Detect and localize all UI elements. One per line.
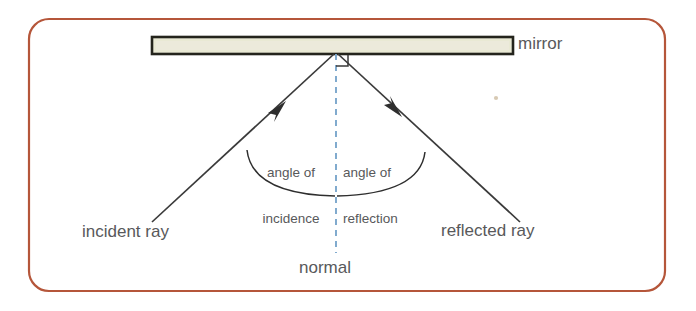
- incident-ray-arrowhead: [268, 101, 286, 122]
- reflected-ray-label: reflected ray: [441, 221, 535, 240]
- angle-of-incidence-label-line1: angle of: [252, 165, 330, 180]
- angle-of-incidence-label: angle of incidence: [252, 135, 330, 256]
- scan-artifact-dot: [494, 96, 498, 100]
- angle-of-reflection-label-line1: angle of: [343, 165, 427, 180]
- normal-label: normal: [299, 258, 351, 277]
- incident-ray-label: incident ray: [82, 222, 169, 241]
- reflection-diagram: mirror incident ray reflected ray normal…: [0, 0, 696, 311]
- angle-of-reflection-label: angle of reflection: [343, 135, 427, 256]
- mirror-bar: [152, 37, 513, 54]
- mirror-label: mirror: [518, 34, 562, 53]
- angle-of-reflection-label-line2: reflection: [343, 211, 427, 226]
- angle-of-incidence-label-line2: incidence: [252, 211, 330, 226]
